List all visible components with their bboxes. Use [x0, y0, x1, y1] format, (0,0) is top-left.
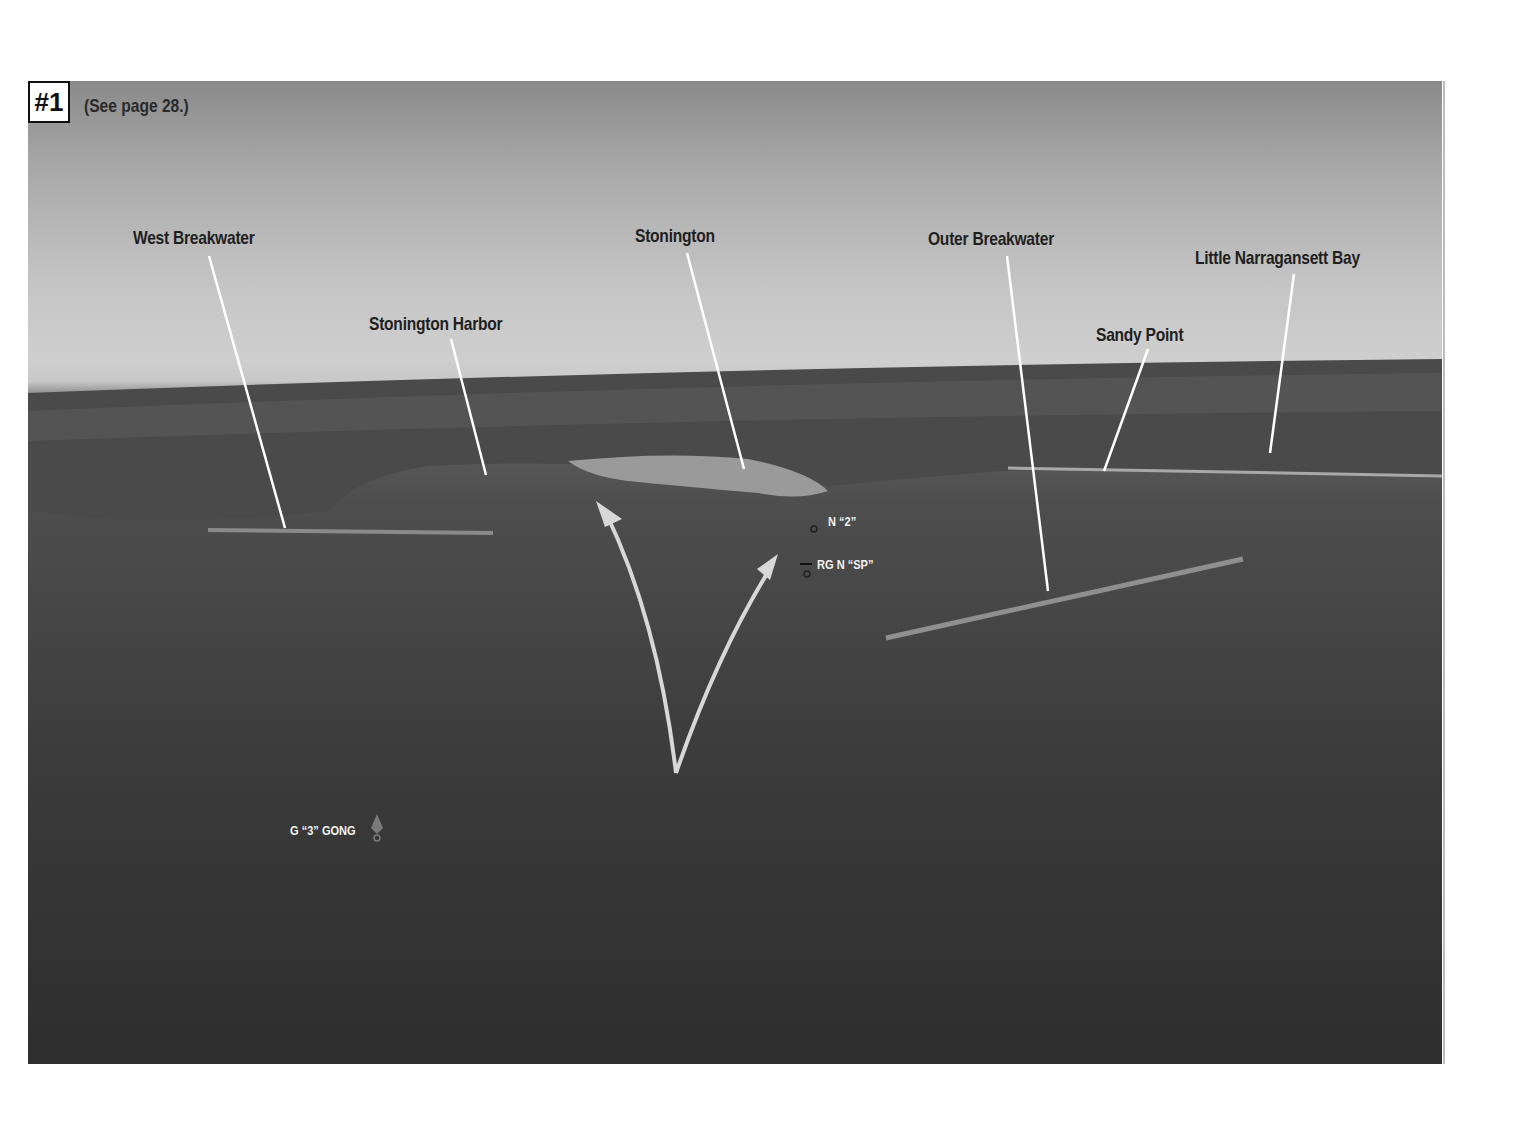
nun-buoy-2-icon	[811, 526, 817, 532]
label-outer-breakwater: Outer Breakwater	[928, 228, 1054, 250]
gong-buoy-icon	[371, 814, 383, 834]
label-west-breakwater: West Breakwater	[133, 227, 255, 249]
buoy-label-g-3-gong: G “3” GONG	[290, 823, 356, 838]
label-sandy-point: Sandy Point	[1096, 324, 1183, 346]
arrow-head-left-icon	[596, 501, 622, 527]
arrow-head-right-icon	[757, 554, 778, 580]
rg-n-sp-buoy-icon	[800, 563, 812, 565]
figure-number-box: #1	[28, 81, 70, 123]
aerial-photo: #1 (See page 28.) West Breakwater Stonin…	[28, 81, 1442, 1064]
label-stonington-harbor: Stonington Harbor	[369, 313, 502, 335]
outer-breakwater-structure	[886, 559, 1243, 638]
rg-n-sp-buoy-circle-icon	[804, 571, 810, 577]
gong-buoy-circle-icon	[374, 835, 380, 841]
west-breakwater-structure	[208, 530, 493, 533]
figure-page-reference: (See page 28.)	[84, 95, 189, 117]
buoy-label-rg-n-sp: RG N “SP”	[817, 557, 873, 572]
label-stonington: Stonington	[635, 225, 715, 247]
label-little-narragansett-bay: Little Narragansett Bay	[1195, 247, 1360, 269]
approach-route-arrows	[606, 513, 773, 773]
buoy-label-n-2: N “2”	[828, 514, 856, 529]
page-margin-edge	[1443, 81, 1445, 1064]
